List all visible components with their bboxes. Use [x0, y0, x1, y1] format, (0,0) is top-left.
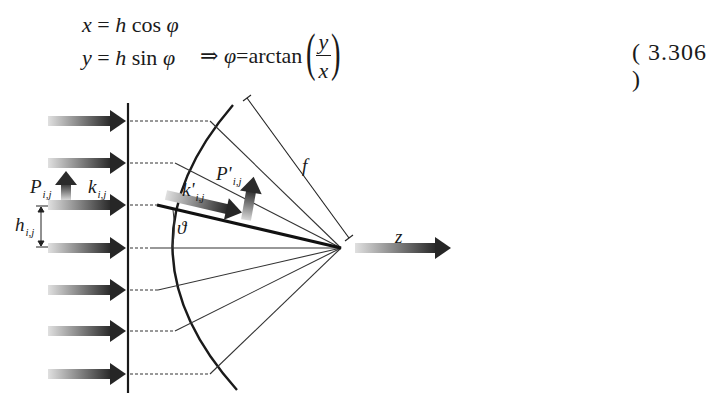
label-k-subscript: i,j	[97, 188, 106, 200]
label-h-text: h	[15, 214, 25, 235]
label-z: z	[395, 227, 402, 246]
incident-ray-arrows	[48, 110, 126, 385]
label-f: f	[302, 156, 307, 175]
p-arrow-icon	[55, 171, 77, 200]
label-k-prime: k'i,j	[182, 180, 204, 203]
label-k: ki,j	[88, 177, 106, 200]
label-P-prime-text: P'	[216, 163, 232, 184]
focal-length-dimension	[243, 95, 353, 241]
label-k-prime-subscript: i,j	[196, 191, 205, 203]
label-P-prime-subscript: i,j	[233, 175, 242, 187]
parabolic-mirror-diagram	[0, 0, 713, 409]
ray-arrow-icon	[48, 110, 126, 132]
label-P-prime: P'i,j	[216, 164, 242, 187]
h-dimension	[36, 206, 48, 247]
label-P-text: P	[30, 176, 42, 197]
ray-arrow-icon	[48, 152, 126, 174]
reflected-rays	[152, 121, 341, 374]
ray-arrow-icon	[48, 194, 126, 216]
label-k-prime-text: k'	[182, 179, 195, 200]
label-k-text: k	[88, 176, 96, 197]
label-P: Pi,j	[30, 177, 51, 200]
label-h: hi,j	[15, 215, 34, 238]
ray-arrow-icon	[48, 363, 126, 385]
label-P-subscript: i,j	[43, 188, 52, 200]
ray-arrow-icon	[48, 320, 126, 342]
label-theta: ϑ	[177, 218, 186, 237]
ray-arrow-icon	[48, 279, 126, 301]
label-h-subscript: i,j	[26, 226, 35, 238]
z-axis-arrow-icon	[355, 237, 451, 259]
ray-arrow-icon	[48, 237, 126, 259]
